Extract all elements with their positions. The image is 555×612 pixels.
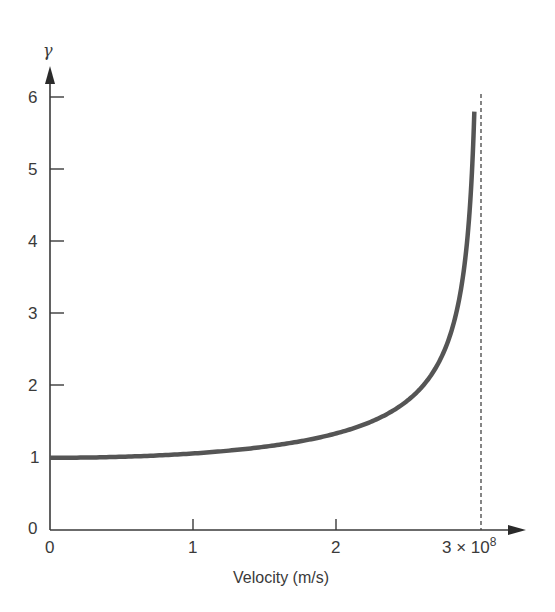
y-tick-label-0: 0 [28, 519, 37, 538]
x-tick-label-3: 3 × 108 [442, 535, 497, 557]
y-tick-label-1: 1 [30, 448, 39, 467]
x-axis-arrow-icon [508, 525, 526, 535]
y-tick-label-6: 6 [28, 88, 37, 107]
lorentz-factor-chart: γ 6 5 4 3 2 1 0 0 1 2 3 × 108 Velocity (… [0, 0, 555, 612]
y-tick-labels: 6 5 4 3 2 1 0 [28, 88, 39, 538]
y-tick-label-3: 3 [28, 304, 37, 323]
x-tick-label-2: 2 [331, 538, 340, 557]
x-tick-labels: 0 1 2 3 × 108 [45, 535, 497, 557]
y-tick-label-4: 4 [28, 232, 37, 251]
x-axis-title: Velocity (m/s) [233, 569, 329, 586]
y-ticks [50, 97, 64, 457]
x-ticks [193, 519, 336, 530]
y-axis-symbol: γ [43, 41, 53, 60]
y-tick-label-5: 5 [28, 160, 37, 179]
y-tick-label-2: 2 [28, 376, 37, 395]
gamma-curve [50, 112, 474, 458]
y-axis-arrow-icon [45, 66, 55, 84]
x-tick-label-1: 1 [188, 538, 197, 557]
x-tick-label-0: 0 [45, 538, 54, 557]
